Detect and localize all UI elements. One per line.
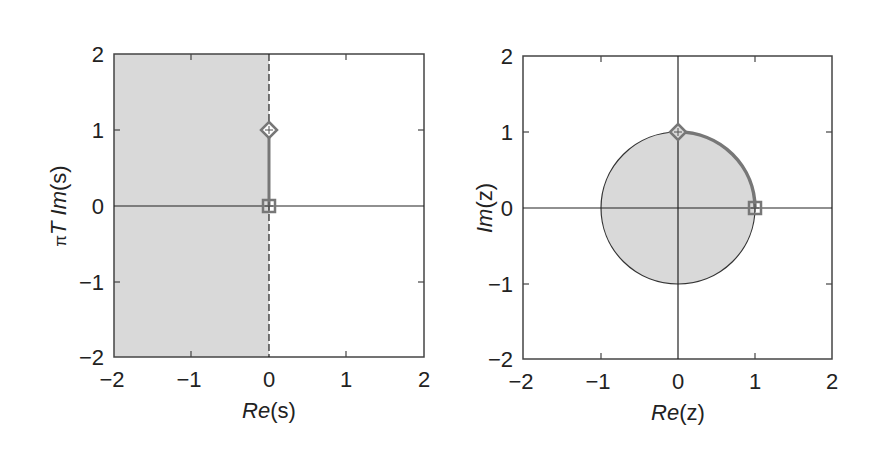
ytick-label: 0	[501, 196, 513, 221]
xtick-label: 1	[340, 367, 352, 392]
ytick-label: 1	[92, 118, 104, 143]
xtick-label: −1	[176, 367, 201, 392]
ytick-label: 2	[92, 42, 104, 67]
xtick-label: −2	[508, 369, 533, 394]
xtick-label: 2	[418, 367, 430, 392]
ytick-label: 0	[92, 194, 104, 219]
z-plane-plot: 2 1 0 −1 −2 −2 −1 0 1 2 Re(z) Im(z)	[472, 44, 838, 425]
xtick-label: 0	[672, 369, 684, 394]
s-plane-plot: 2 1 0 −1 −2 −2 −1 0 1 2 Re(s) πT Im(s)	[46, 42, 430, 423]
ytick-label: 1	[501, 120, 513, 145]
ytick-label: −1	[488, 272, 513, 297]
ytick-label: 2	[501, 44, 513, 69]
x-axis-label: Re(s)	[242, 398, 296, 423]
y-axis-label: Im(z)	[472, 183, 497, 233]
figure: 2 1 0 −1 −2 −2 −1 0 1 2 Re(s) πT Im(s)	[0, 0, 879, 455]
xtick-label: −2	[99, 367, 124, 392]
xtick-label: 1	[749, 369, 761, 394]
xtick-label: 0	[263, 367, 275, 392]
x-axis-label: Re(z)	[651, 400, 705, 425]
y-axis-label: πT Im(s)	[46, 165, 71, 246]
xtick-label: −1	[585, 369, 610, 394]
ytick-label: −1	[79, 270, 104, 295]
xtick-label: 2	[826, 369, 838, 394]
